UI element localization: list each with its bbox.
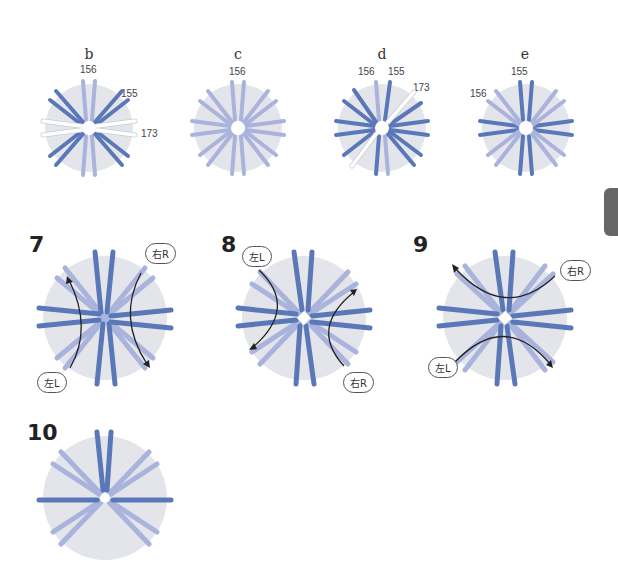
diagram-c-disc	[188, 78, 288, 178]
step-10-diagram	[35, 428, 175, 564]
diagram-b-number-156: 156	[80, 64, 97, 75]
diagram-c-label: c	[228, 46, 248, 62]
step-9-number: 9	[413, 232, 428, 257]
diagram-c-number-156: 156	[229, 66, 246, 77]
diagram-d-label: d	[372, 46, 392, 62]
diagram-d-number-156: 156	[358, 66, 375, 77]
step-7-bubble-left: 左L	[37, 372, 67, 393]
step-8-bubble-right: 右R	[343, 372, 374, 393]
step-7-bubble-right: 右R	[145, 243, 176, 264]
step-9-bubble-right: 右R	[560, 260, 591, 281]
diagram-e-number-155: 155	[511, 66, 528, 77]
step-8-diagram	[234, 248, 374, 388]
diagram-d-number-155: 155	[388, 66, 405, 77]
step-9-bubble-left: 左L	[428, 357, 458, 378]
diagram-e-label: e	[515, 46, 535, 62]
diagram-b-number-173: 173	[141, 128, 158, 139]
chapter-side-tab	[604, 188, 618, 236]
diagram-d-disc	[332, 78, 432, 178]
diagram-b-disc	[39, 78, 139, 178]
step-8-bubble-left: 左L	[242, 246, 272, 267]
step-7-diagram	[35, 248, 175, 388]
diagram-e-disc	[476, 78, 576, 178]
diagram-b-label: b	[79, 46, 99, 62]
